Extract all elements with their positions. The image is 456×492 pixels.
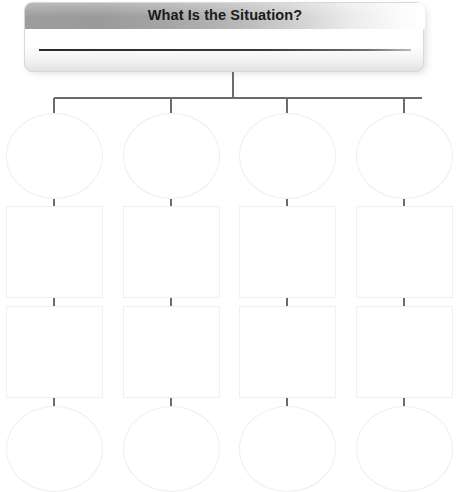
- node-square-c3-r3[interactable]: [239, 306, 336, 398]
- branch-column-3: [235, 0, 339, 492]
- branch-column-4: [352, 0, 456, 492]
- node-square-c1-r2[interactable]: [6, 206, 103, 298]
- node-circle-c2-r1[interactable]: [123, 113, 220, 199]
- branch-column-1: [2, 0, 106, 492]
- branch-column-2: [119, 0, 223, 492]
- node-square-c4-r3[interactable]: [356, 306, 453, 398]
- node-square-c2-r3[interactable]: [123, 306, 220, 398]
- node-circle-c3-r4[interactable]: [239, 406, 336, 492]
- node-circle-c1-r4[interactable]: [6, 406, 103, 492]
- node-circle-c3-r1[interactable]: [239, 113, 336, 199]
- node-circle-c1-r1[interactable]: [6, 113, 103, 199]
- node-square-c3-r2[interactable]: [239, 206, 336, 298]
- node-square-c2-r2[interactable]: [123, 206, 220, 298]
- node-circle-c4-r1[interactable]: [356, 113, 453, 199]
- node-square-c1-r3[interactable]: [6, 306, 103, 398]
- node-square-c4-r2[interactable]: [356, 206, 453, 298]
- page-title: What Is the Situation?: [25, 3, 425, 29]
- node-circle-c4-r4[interactable]: [356, 406, 453, 492]
- node-circle-c2-r4[interactable]: [123, 406, 220, 492]
- header-title-bar: What Is the Situation?: [25, 3, 425, 29]
